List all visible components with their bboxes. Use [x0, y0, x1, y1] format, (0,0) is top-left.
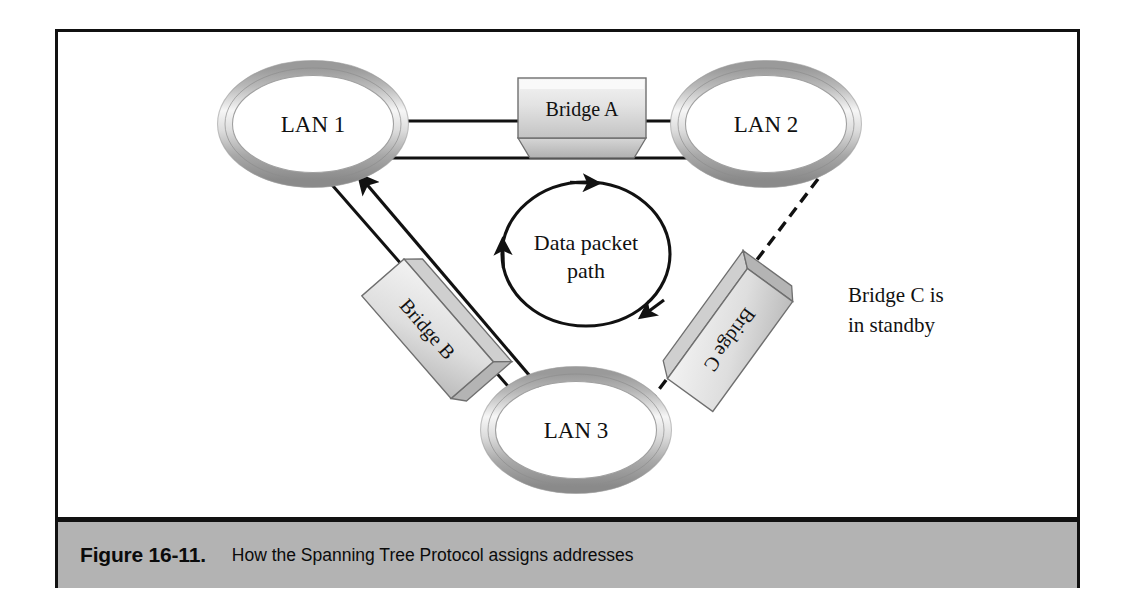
node-lan3-label: LAN 3 — [544, 418, 609, 443]
bridge-a-label: Bridge A — [546, 98, 619, 121]
node-lan2[interactable]: LAN 2 — [671, 61, 862, 188]
figure-frame: Data packet path LAN 1 LAN 2 — [55, 29, 1080, 588]
figure-number: Figure 16-11. — [80, 543, 206, 567]
standby-note-line2: in standby — [848, 313, 935, 337]
node-lan1-label: LAN 1 — [281, 112, 346, 137]
standby-note-line1: Bridge C is — [848, 283, 944, 307]
node-lan2-label: LAN 2 — [734, 112, 799, 137]
bridge-c[interactable]: Bridge C — [656, 251, 800, 412]
loop-label-line2: path — [567, 258, 605, 283]
network-diagram: Data packet path LAN 1 LAN 2 — [58, 32, 1077, 517]
bridge-a[interactable]: Bridge A — [518, 78, 646, 158]
node-lan1[interactable]: LAN 1 — [218, 61, 409, 188]
node-lan3[interactable]: LAN 3 — [481, 367, 672, 494]
standby-note: Bridge C is in standby — [848, 283, 944, 337]
figure-root: Data packet path LAN 1 LAN 2 — [0, 0, 1135, 609]
loop-label-line1: Data packet — [534, 230, 638, 255]
figure-caption-bar: Figure 16-11. How the Spanning Tree Prot… — [58, 517, 1077, 588]
figure-caption-text: How the Spanning Tree Protocol assigns a… — [232, 545, 634, 566]
data-packet-loop: Data packet path — [502, 182, 670, 326]
